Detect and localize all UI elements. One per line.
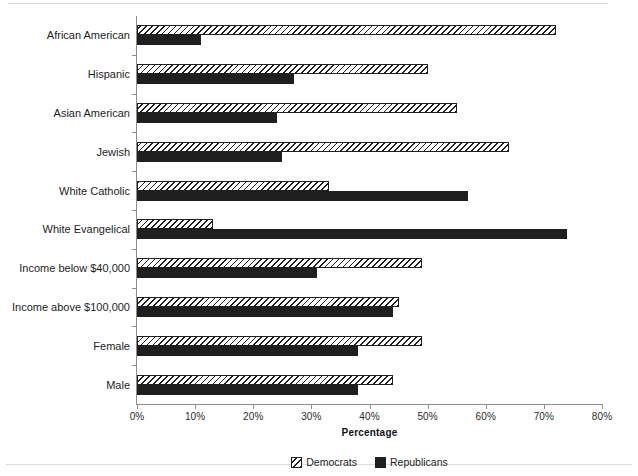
x-tick-mark (602, 404, 603, 409)
bar-democrats (137, 103, 457, 113)
bar-republicans (137, 268, 317, 278)
x-tick-mark (486, 404, 487, 409)
x-tick-label: 10% (185, 411, 205, 422)
legend-label-republicans: Republicans (390, 456, 448, 468)
bar-row: African American (137, 25, 602, 45)
bar-democrats (137, 297, 399, 307)
bar-row: Male (137, 375, 602, 395)
x-tick-label: 40% (359, 411, 379, 422)
bar-republicans (137, 113, 277, 123)
x-tick-label: 20% (243, 411, 263, 422)
y-axis-category-label: Male (106, 380, 130, 391)
x-tick-mark (137, 404, 138, 409)
x-tick-mark (544, 404, 545, 409)
y-axis-category-label: African American (47, 30, 130, 41)
x-tick-label: 60% (476, 411, 496, 422)
x-tick-mark (195, 404, 196, 409)
bar-republicans (137, 307, 393, 317)
republicans-swatch-icon (375, 457, 386, 468)
bar-democrats (137, 25, 556, 35)
bar-republicans (137, 152, 282, 162)
x-tick-mark (428, 404, 429, 409)
legend-item-republicans[interactable]: Republicans (375, 456, 448, 468)
y-tick-mark (132, 55, 137, 56)
democrats-swatch-icon (291, 457, 302, 468)
bar-row: Hispanic (137, 64, 602, 84)
legend-item-democrats[interactable]: Democrats (291, 456, 357, 468)
bar-democrats (137, 336, 422, 346)
y-tick-mark (132, 365, 137, 366)
bar-republicans (137, 74, 294, 84)
y-axis-category-label: White Evangelical (43, 224, 130, 235)
x-tick-label: 70% (534, 411, 554, 422)
bar-row: Jewish (137, 142, 602, 162)
chart-legend: Democrats Republicans (137, 456, 602, 468)
x-tick-label: 0% (130, 411, 145, 422)
x-tick-label: 80% (592, 411, 612, 422)
bar-republicans (137, 346, 358, 356)
bar-republicans (137, 35, 201, 45)
bar-democrats (137, 219, 213, 229)
x-tick-mark (311, 404, 312, 409)
y-axis-category-label: Income below $40,000 (19, 263, 130, 274)
bar-row: Income above $100,000 (137, 297, 602, 317)
x-tick-label: 50% (417, 411, 437, 422)
bar-democrats (137, 375, 393, 385)
x-tick-mark (253, 404, 254, 409)
bar-democrats (137, 142, 509, 152)
y-tick-mark (132, 326, 137, 327)
y-axis-category-label: White Catholic (59, 186, 130, 197)
bar-row: Female (137, 336, 602, 356)
x-tick-mark (370, 404, 371, 409)
bar-row: White Evangelical (137, 219, 602, 239)
bar-republicans (137, 385, 358, 395)
bar-democrats (137, 181, 329, 191)
bar-republicans (137, 191, 468, 201)
y-tick-mark (132, 132, 137, 133)
y-axis-category-label: Jewish (96, 147, 130, 158)
y-tick-mark (132, 288, 137, 289)
bar-row: White Catholic (137, 181, 602, 201)
bar-republicans (137, 229, 567, 239)
figure-top-rule (8, 3, 608, 4)
plot-area: 0%10%20%30%40%50%60%70%80% African Ameri… (137, 16, 602, 404)
y-tick-mark (132, 249, 137, 250)
y-axis-category-label: Income above $100,000 (12, 302, 130, 313)
x-axis-title: Percentage (137, 427, 602, 438)
y-tick-mark (132, 94, 137, 95)
y-axis-category-label: Female (93, 341, 130, 352)
legend-label-democrats: Democrats (306, 456, 357, 468)
y-axis-category-label: Asian American (54, 108, 130, 119)
chart-figure: 0%10%20%30%40%50%60%70%80% African Ameri… (0, 0, 638, 476)
bar-democrats (137, 64, 428, 74)
y-tick-mark (132, 171, 137, 172)
bar-democrats (137, 258, 422, 268)
bar-row: Income below $40,000 (137, 258, 602, 278)
y-tick-mark (132, 210, 137, 211)
bar-row: Asian American (137, 103, 602, 123)
x-tick-label: 30% (301, 411, 321, 422)
y-axis-category-label: Hispanic (88, 69, 130, 80)
